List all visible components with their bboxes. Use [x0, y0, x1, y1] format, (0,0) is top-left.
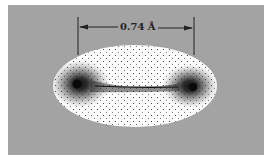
nucleus-left — [73, 80, 82, 89]
bond-length-label: 0.74 Å — [118, 21, 158, 33]
nucleus-right — [189, 83, 197, 91]
